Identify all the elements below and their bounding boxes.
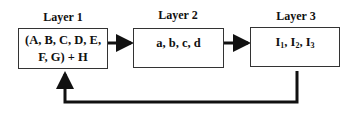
- layer1-title: Layer 1: [18, 10, 108, 25]
- layer1-content-line2: F, G) + H: [19, 49, 107, 66]
- layer3-content: I1, I2, I3: [251, 34, 339, 54]
- layer2-box: a, b, c, d: [133, 28, 224, 68]
- layer3-box: I1, I2, I3: [250, 27, 340, 67]
- layer1-content-line1: (A, B, C, D, E,: [19, 32, 107, 49]
- layer1-box: (A, B, C, D, E, F, G) + H: [18, 28, 108, 69]
- feedback-arrow-layer3-to-layer1: [65, 71, 297, 102]
- layer2-title: Layer 2: [133, 8, 223, 23]
- layer2-content: a, b, c, d: [134, 35, 223, 52]
- layer3-title: Layer 3: [251, 9, 341, 24]
